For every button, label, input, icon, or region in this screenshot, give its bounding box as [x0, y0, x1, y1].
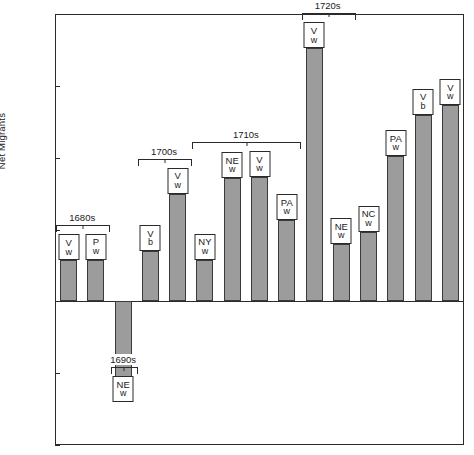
bar-label-race: w: [202, 247, 209, 256]
y-tick-mark: [55, 445, 60, 446]
bar-fill: [142, 251, 159, 301]
bar-fill: [387, 156, 404, 301]
bar-label-race: w: [120, 389, 127, 398]
bar-label-box: Vw: [167, 168, 188, 194]
bar-fill: [60, 260, 77, 301]
bar-label-race: w: [365, 219, 372, 228]
bar-label-box: Vw: [58, 234, 79, 260]
decade-group-1680s: 1680s: [56, 212, 108, 234]
bar-fill: [251, 177, 268, 301]
bar-ny-w-1710s[interactable]: NYw: [196, 14, 213, 445]
decade-bracket: [111, 367, 138, 374]
bar-label-race: w: [284, 207, 291, 216]
bar-fill: [87, 260, 104, 302]
bar-v-w-1730s[interactable]: Vw: [442, 14, 459, 445]
bar-label-race: w: [229, 165, 236, 174]
bar-fill: [442, 105, 459, 301]
decade-label: 1690s: [108, 354, 138, 365]
net-migrants-bar-chart: Net Migrants 40,00030,00020,00010,0000-1…: [0, 0, 474, 455]
bar-label-box: NEw: [331, 218, 352, 244]
decade-group-1690s: 1690s: [111, 354, 136, 376]
bar-v-w-1710s[interactable]: Vw: [251, 14, 268, 445]
bar-v-b-1730s[interactable]: Vb: [415, 14, 432, 445]
decade-group-1700s: 1700s: [138, 146, 190, 168]
bar-fill: [169, 194, 186, 302]
bar-label-box: Vw: [440, 79, 461, 105]
bar-label-race: w: [338, 231, 345, 240]
bar-label-race: w: [393, 143, 400, 152]
bar-ne-w-1690s[interactable]: NEw: [115, 14, 132, 445]
bar-label-race: w: [174, 181, 181, 190]
bar-ne-w-1710s[interactable]: NEw: [224, 14, 241, 445]
bar-label-race: w: [93, 247, 100, 256]
decade-label: 1700s: [149, 146, 179, 157]
decade-group-1720s: 1720s: [302, 0, 354, 22]
bar-nc-w-1730s[interactable]: NCw: [360, 14, 377, 445]
bar-v-w-1720s[interactable]: Vw: [306, 14, 323, 445]
bar-label-box: Pw: [85, 234, 106, 260]
bar-ne-w-1720s[interactable]: NEw: [333, 14, 350, 445]
bar-label-box: Vb: [140, 225, 161, 251]
decade-bracket: [302, 13, 356, 20]
bar-v-b-1700s[interactable]: Vb: [142, 14, 159, 445]
bar-fill: [306, 48, 323, 301]
decade-label: 1720s: [313, 0, 343, 11]
bar-label-box: Vb: [413, 89, 434, 115]
bar-fill: [415, 115, 432, 302]
bar-label-race: b: [148, 238, 153, 247]
bar-label-race: b: [421, 102, 426, 111]
bar-pa-w-1730s[interactable]: PAw: [387, 14, 404, 445]
decade-bracket: [192, 142, 301, 149]
bar-fill: [360, 232, 377, 302]
decade-label: 1680s: [67, 212, 97, 223]
bar-fill: [278, 220, 295, 301]
decade-bracket: [138, 159, 192, 166]
bar-label-box: NEw: [222, 152, 243, 178]
bar-fill: [333, 244, 350, 301]
decade-group-1710s: 1710s: [192, 129, 299, 151]
bar-label-box: PAw: [385, 130, 406, 156]
bar-fill: [224, 178, 241, 302]
bar-label-box: NYw: [194, 234, 215, 260]
bar-label-box: PAw: [276, 194, 297, 220]
y-axis-title: Net Migrants: [0, 86, 7, 196]
bar-label-race: w: [447, 92, 454, 101]
bar-label-box: Vw: [304, 22, 325, 48]
bar-label-race: w: [311, 36, 318, 45]
bar-label-box: Vw: [249, 151, 270, 177]
bar-pa-w-1710s[interactable]: PAw: [278, 14, 295, 445]
bar-label-race: w: [256, 164, 263, 173]
bars-layer: VwPwNEwVbVwNYwNEwVwPAwVwNEwNCwPAwVbVw: [55, 14, 464, 445]
decade-label: 1710s: [231, 129, 261, 140]
bar-label-box: NCw: [358, 206, 379, 232]
bar-label-race: w: [65, 248, 72, 257]
decade-bracket: [56, 225, 110, 232]
bar-fill: [196, 260, 213, 302]
bar-label-box: NEw: [113, 376, 134, 402]
bar-v-w-1700s[interactable]: Vw: [169, 14, 186, 445]
